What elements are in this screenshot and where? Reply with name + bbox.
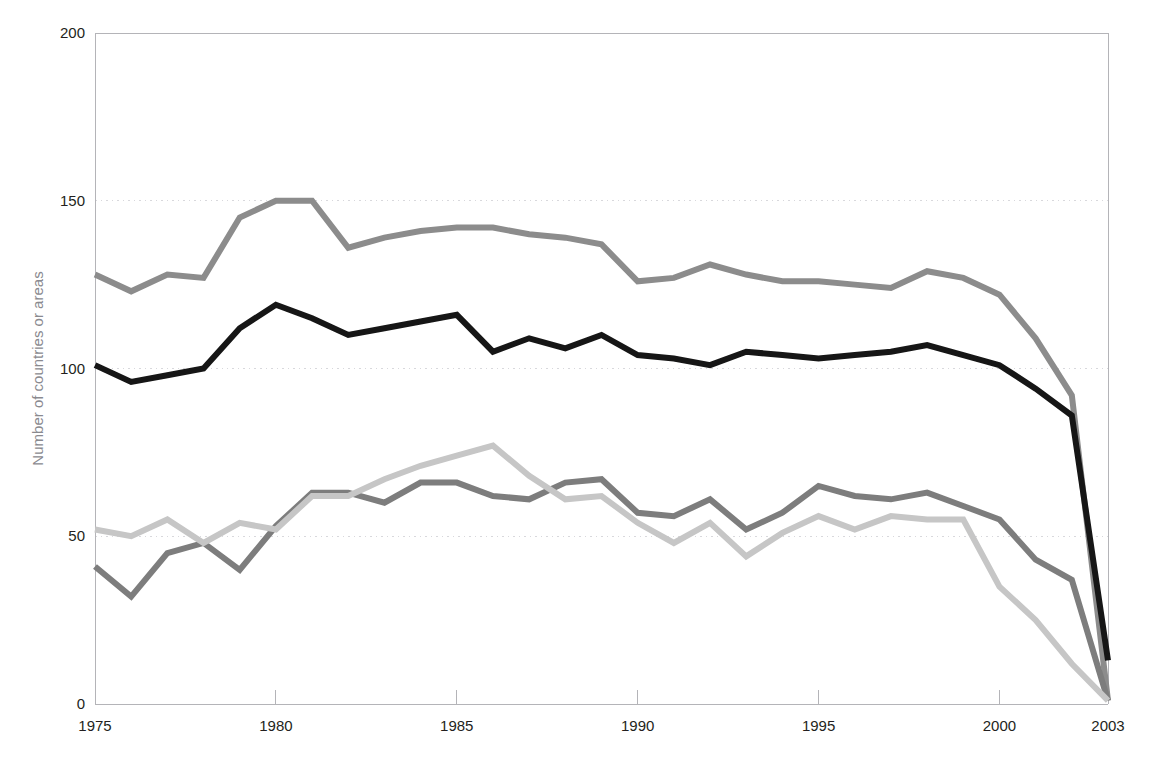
xtick-label-1980: 1980 <box>259 717 292 734</box>
ytick-label-200: 200 <box>60 24 85 41</box>
ytick-label-0: 0 <box>77 695 85 712</box>
chart-page: 0501001502001975198019851990199520002003… <box>0 0 1151 778</box>
axis-ticks <box>95 690 999 704</box>
ytick-label-50: 50 <box>68 527 85 544</box>
series-line-4 <box>95 446 1108 701</box>
xtick-label-2003: 2003 <box>1091 717 1124 734</box>
series-line-3 <box>95 479 1108 700</box>
xtick-label-1995: 1995 <box>802 717 835 734</box>
xtick-label-2000: 2000 <box>983 717 1016 734</box>
axis-labels-layer: 0501001502001975198019851990199520002003… <box>29 24 1125 734</box>
xtick-label-1975: 1975 <box>78 717 111 734</box>
y-axis-title: Number of countries or areas <box>29 271 46 465</box>
ytick-label-100: 100 <box>60 360 85 377</box>
series-line-1 <box>95 201 1108 701</box>
xtick-label-1985: 1985 <box>440 717 473 734</box>
line-chart: 0501001502001975198019851990199520002003… <box>0 0 1151 778</box>
ytick-label-150: 150 <box>60 192 85 209</box>
xtick-label-1990: 1990 <box>621 717 654 734</box>
gridlines <box>95 201 1108 537</box>
data-series-layer <box>95 201 1108 701</box>
